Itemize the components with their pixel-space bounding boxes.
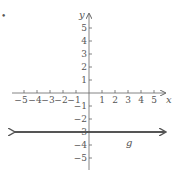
- x-axis-label: x: [166, 94, 172, 105]
- svg-text:3: 3: [81, 49, 87, 59]
- svg-text:−5: −5: [74, 153, 88, 163]
- svg-text:5: 5: [151, 95, 157, 105]
- svg-text:−5: −5: [14, 95, 28, 105]
- coordinate-graph: • −5 −4 −3 −2 −1 1 2 3 4: [0, 0, 176, 173]
- svg-text:1: 1: [81, 75, 87, 85]
- svg-text:2: 2: [81, 62, 87, 72]
- svg-text:−4: −4: [74, 140, 88, 150]
- svg-text:−1: −1: [74, 101, 87, 111]
- svg-text:1: 1: [99, 95, 105, 105]
- svg-text:4: 4: [138, 95, 144, 105]
- svg-text:3: 3: [125, 95, 131, 105]
- svg-text:2: 2: [112, 95, 118, 105]
- svg-text:5: 5: [81, 23, 87, 33]
- svg-text:−4: −4: [28, 95, 42, 105]
- svg-text:−2: −2: [54, 95, 67, 105]
- svg-text:4: 4: [81, 36, 87, 46]
- problem-marker: •: [1, 11, 6, 21]
- line-g-label: g: [126, 137, 132, 148]
- y-axis-label: y: [78, 9, 85, 20]
- svg-text:−2: −2: [74, 114, 87, 124]
- svg-text:−3: −3: [41, 95, 55, 105]
